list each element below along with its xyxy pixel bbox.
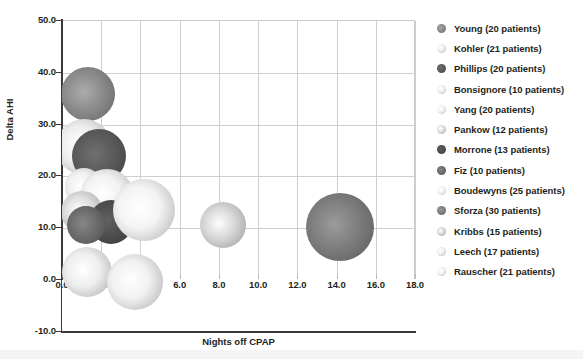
bubble-chart-figure: 50.040.030.020.010.00.0-10.0 0.02.04.06.… [0, 0, 583, 359]
bubble-leech [62, 247, 112, 297]
legend-label: Sforza (30 patients) [454, 205, 541, 216]
legend-sphere-icon [437, 145, 446, 154]
gridline-vertical [415, 21, 416, 279]
legend-label: Pankow (12 patients) [454, 124, 548, 135]
legend-marker-cell [428, 44, 454, 53]
y-tick-mark [56, 124, 61, 125]
legend-sphere-icon [437, 64, 446, 73]
legend-label: Morrone (13 patients) [454, 144, 550, 155]
legend-label: Fiz (10 patients) [454, 165, 525, 176]
legend-item-kohler[interactable]: Kohler (21 patients) [428, 38, 580, 58]
legend-label: Bonsignore (10 patients) [454, 84, 564, 95]
legend-marker-cell [428, 85, 454, 94]
legend-sphere-icon [437, 267, 446, 276]
y-tick-label: 40.0 [2, 66, 56, 77]
legend-item-pankow[interactable]: Pankow (12 patients) [428, 119, 580, 139]
y-tick-mark [56, 227, 61, 228]
legend-marker-cell [428, 125, 454, 134]
legend-label: Young (20 patients) [454, 23, 541, 34]
legend-label: Phillips (20 patients) [454, 63, 545, 74]
legend-marker-cell [428, 145, 454, 154]
legend-label: Boudewyns (25 patients) [454, 185, 565, 196]
legend-sphere-icon [437, 247, 446, 256]
legend-item-leech[interactable]: Leech (17 patients) [428, 241, 580, 261]
bubble-boudewyns [113, 179, 175, 241]
legend-marker-cell [428, 186, 454, 195]
legend-sphere-icon [437, 105, 446, 114]
legend-sphere-icon [437, 227, 446, 236]
legend-item-yang[interactable]: Yang (20 patients) [428, 99, 580, 119]
legend-item-fiz[interactable]: Fiz (10 patients) [428, 160, 580, 180]
legend-label: Leech (17 patients) [454, 246, 539, 257]
y-tick-mark [56, 175, 61, 176]
legend-item-boudewyns[interactable]: Boudewyns (25 patients) [428, 180, 580, 200]
legend-marker-cell [428, 247, 454, 256]
y-tick-label: 20.0 [2, 169, 56, 180]
bubble-series-container [62, 20, 415, 332]
y-tick-label: -10.0 [2, 325, 56, 336]
y-tick-mark [56, 72, 61, 73]
legend-sphere-icon [437, 186, 446, 195]
legend-marker-cell [428, 206, 454, 215]
legend-item-phillips[interactable]: Phillips (20 patients) [428, 59, 580, 79]
legend-sphere-icon [437, 206, 446, 215]
legend-marker-cell [428, 105, 454, 114]
legend-marker-cell [428, 64, 454, 73]
bubble-fiz [67, 206, 105, 244]
legend-label: Yang (20 patients) [454, 104, 534, 115]
plot-area: 50.040.030.020.010.00.0-10.0 0.02.04.06.… [0, 0, 430, 345]
legend-sphere-icon [437, 125, 446, 134]
legend-label: Rauscher (21 patients) [454, 266, 555, 277]
legend: Young (20 patients)Kohler (21 patients)P… [428, 18, 580, 282]
legend-item-young[interactable]: Young (20 patients) [428, 18, 580, 38]
legend-marker-cell [428, 166, 454, 175]
y-axis-title: Delta AHI [4, 127, 15, 141]
legend-label: Kribbs (15 patients) [454, 226, 542, 237]
legend-item-rauscher[interactable]: Rauscher (21 patients) [428, 262, 580, 282]
footer-strip [0, 350, 583, 359]
legend-item-kribbs[interactable]: Kribbs (15 patients) [428, 221, 580, 241]
legend-marker-cell [428, 227, 454, 236]
y-tick-label: 10.0 [2, 221, 56, 232]
bubble-sforza [306, 193, 374, 261]
y-axis-tick-labels: 50.040.030.020.010.00.0-10.0 [0, 0, 56, 345]
legend-item-morrone[interactable]: Morrone (13 patients) [428, 140, 580, 160]
legend-marker-cell [428, 24, 454, 33]
bubble-young [62, 67, 115, 121]
legend-sphere-icon [437, 166, 446, 175]
legend-sphere-icon [437, 44, 446, 53]
y-tick-mark [56, 20, 61, 21]
legend-item-bonsignore[interactable]: Bonsignore (10 patients) [428, 79, 580, 99]
y-tick-mark [56, 331, 61, 332]
bubble-rauscher [107, 254, 163, 310]
bubble-kribbs [200, 202, 246, 248]
legend-marker-cell [428, 267, 454, 276]
legend-sphere-icon [437, 24, 446, 33]
legend-label: Kohler (21 patients) [454, 43, 542, 54]
legend-item-sforza[interactable]: Sforza (30 patients) [428, 201, 580, 221]
legend-sphere-icon [437, 85, 446, 94]
y-tick-label: 50.0 [2, 14, 56, 25]
x-axis-title: Nights off CPAP [62, 336, 415, 347]
